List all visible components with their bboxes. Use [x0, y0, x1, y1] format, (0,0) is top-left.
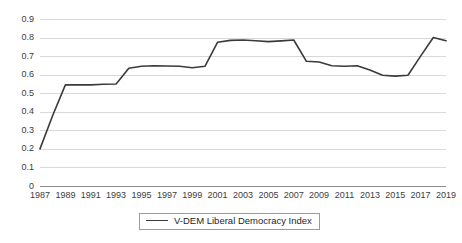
x-axis-tick-label: 2005 — [258, 190, 278, 201]
y-axis-labels: 0.90.80.70.60.50.40.30.20.10 — [0, 0, 36, 243]
plot-area — [40, 19, 446, 186]
x-axis-tick-label: 2001 — [208, 190, 228, 201]
x-axis-tick-label: 1991 — [81, 190, 101, 201]
y-axis-tick-label: 0 — [0, 182, 34, 191]
x-axis-tick-label: 2017 — [411, 190, 431, 201]
series-path-vdem-liberal-democracy-index — [40, 38, 446, 149]
legend-item-label: V-DEM Liberal Democracy Index — [174, 216, 312, 226]
x-axis-tick-label: 2011 — [335, 190, 354, 201]
y-axis-tick-label: 0.5 — [0, 89, 34, 98]
series-line-chart — [40, 19, 446, 186]
chart-container: 0.90.80.70.60.50.40.30.20.10 19871989199… — [0, 0, 462, 243]
y-axis-tick-label: 0.6 — [0, 70, 34, 79]
x-axis-baseline — [40, 186, 446, 187]
x-axis-labels: 1987198919911993199519971999200120032005… — [40, 190, 446, 206]
x-axis-tick-label: 1997 — [157, 190, 177, 201]
x-axis-tick-label: 1987 — [30, 190, 50, 201]
x-axis-tick-label: 2007 — [284, 190, 304, 201]
x-axis-tick-label: 1995 — [131, 190, 151, 201]
x-axis-tick-label: 1993 — [106, 190, 126, 201]
x-axis-tick-label: 2009 — [309, 190, 329, 201]
y-axis-tick-label: 0.3 — [0, 126, 34, 135]
y-axis-tick-label: 0.1 — [0, 163, 34, 172]
x-axis-tick-label: 2019 — [436, 190, 456, 201]
x-axis-tick-label: 2003 — [233, 190, 253, 201]
legend-line-swatch — [146, 220, 168, 221]
x-axis-tick-label: 1989 — [55, 190, 75, 201]
y-axis-tick-label: 0.9 — [0, 15, 34, 24]
x-axis-tick-label: 2015 — [385, 190, 405, 201]
chart-legend: V-DEM Liberal Democracy Index — [139, 213, 320, 230]
y-axis-tick-label: 0.4 — [0, 107, 34, 116]
y-axis-tick-label: 0.2 — [0, 144, 34, 153]
y-axis-tick-label: 0.8 — [0, 33, 34, 42]
x-axis-tick-label: 2013 — [360, 190, 380, 201]
x-axis-tick-label: 1999 — [182, 190, 202, 201]
y-axis-tick-label: 0.7 — [0, 52, 34, 61]
